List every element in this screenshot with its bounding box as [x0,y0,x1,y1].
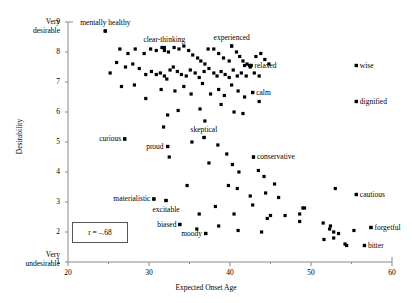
data-point [253,71,256,74]
data-point [149,47,152,50]
data-point [227,184,230,187]
data-point [212,47,215,50]
data-point [266,217,269,220]
correlation-value: r = –.68 [88,228,112,237]
point-label: skeptical [191,125,218,134]
point-label: dignified [360,97,387,106]
y-tick-label: 4 [46,167,60,176]
data-point [259,52,262,55]
data-point [237,229,240,232]
data-point [185,184,188,187]
y-tick-label: 5 [46,137,60,146]
data-point [258,74,261,77]
data-point [332,236,335,239]
labeled-data-point [355,193,358,196]
point-label: biased [157,220,176,229]
data-point [199,59,202,62]
data-point [337,232,340,235]
data-point [257,169,260,172]
y-tick-label: 6 [46,107,60,116]
point-label: curious [99,134,121,143]
y-tick-label: 8 [46,47,60,56]
data-point [180,73,183,76]
data-point [160,88,163,91]
y-tick-label: 3 [46,197,60,206]
data-point [198,107,201,110]
data-point [198,212,201,215]
data-point [150,70,153,73]
data-point [237,89,240,92]
point-label: excitable [153,205,180,214]
data-point [159,71,162,74]
point-label: cautious [360,190,385,199]
labeled-data-point [152,197,155,200]
point-label: clear-thinking [143,35,185,44]
data-point [173,89,176,92]
x-axis-title: Expected Onset Age [0,283,412,292]
data-point [162,125,165,128]
data-point [138,67,141,70]
y-axis-top-anchor-line2: desirable [12,27,60,36]
data-point [225,152,228,155]
data-point [120,85,123,88]
data-point [133,83,136,86]
y-axis-title: Desirability [15,92,24,182]
x-tick-label: 40 [218,268,242,277]
data-point [231,163,234,166]
x-tick-label: 30 [137,268,161,277]
point-label: materialistic [113,194,150,203]
point-label: bitter [368,241,384,250]
data-point [236,187,239,190]
data-point [203,62,206,65]
data-point [209,92,212,95]
point-label: relaxed [255,61,277,70]
labeled-data-point [104,29,107,32]
data-point [115,61,118,64]
data-point [219,70,222,73]
data-point [182,44,185,47]
data-point [303,206,306,209]
data-point [173,46,176,49]
data-point [198,76,201,79]
data-point [207,47,210,50]
point-label: wise [360,61,374,70]
data-point [190,140,193,143]
y-tick-label: 9 [46,17,60,26]
data-point [177,47,180,50]
data-point [224,73,227,76]
data-point [230,83,233,86]
data-point [155,49,158,52]
data-point [262,175,265,178]
data-point [222,56,225,59]
data-point [202,70,205,73]
data-point [168,68,171,71]
data-point [345,244,348,247]
labeled-data-point [251,91,254,94]
data-point [269,214,272,217]
data-point [277,196,280,199]
labeled-data-point [123,137,126,140]
data-point [232,110,235,113]
data-point [203,119,206,122]
data-point [189,68,192,71]
data-point [134,47,137,50]
labeled-data-point [363,244,366,247]
data-point [228,76,231,79]
data-point [217,52,220,55]
data-point [167,50,170,53]
data-point [249,194,252,197]
data-point [243,95,246,98]
data-point [201,82,204,85]
data-point [241,59,244,62]
data-point [176,70,179,73]
data-point [298,212,301,215]
labeled-data-point [178,223,181,226]
scatter-plot-figure: Very desirable Very undesirable Expected… [0,0,412,303]
data-point [273,182,276,185]
data-point [165,77,168,80]
data-point [215,74,218,77]
data-point [207,67,210,70]
data-point [236,74,239,77]
data-point [144,73,147,76]
point-label: experienced [214,33,250,42]
